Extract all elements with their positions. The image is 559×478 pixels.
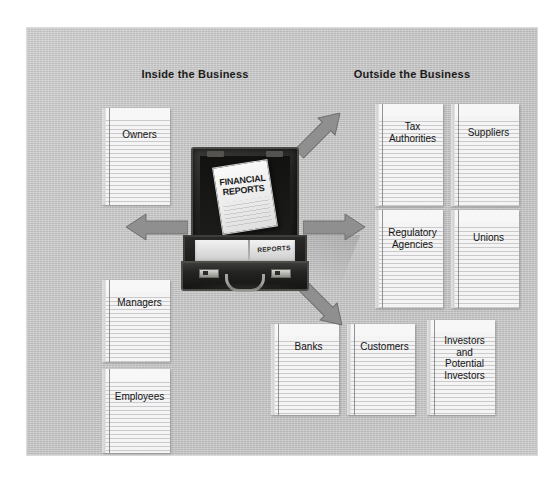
briefcase-paper-stack: REPORTS (195, 240, 295, 263)
card-top-band (375, 104, 443, 116)
card-spine (451, 210, 455, 308)
card-label-regulatory-agencies: Regulatory Agencies (384, 227, 441, 250)
card-ruled-sheet (271, 324, 339, 415)
card-label-investors: Investors and Potential Investors (436, 335, 493, 381)
card-margin-rule (458, 104, 459, 206)
card-unions: Unions (451, 210, 519, 308)
card-margin-rule (109, 108, 110, 205)
briefcase-lid: FINANCIAL REPORTS (191, 147, 299, 249)
card-tax-authorities: Tax Authorities (375, 104, 443, 206)
card-spine (102, 108, 106, 205)
card-top-band (427, 320, 495, 332)
card-suppliers: Suppliers (451, 104, 519, 206)
card-top-band (347, 324, 415, 336)
card-spine (375, 104, 379, 206)
financial-reports-title: FINANCIAL REPORTS (218, 173, 268, 198)
card-spine (375, 210, 379, 308)
card-ruled-sheet (451, 210, 519, 308)
heading-outside-the-business: Outside the Business (347, 68, 477, 80)
card-spine (102, 280, 106, 362)
card-margin-rule (109, 280, 110, 362)
heading-inside-the-business: Inside the Business (135, 68, 255, 80)
card-ruled-sheet (451, 104, 519, 206)
card-margin-rule (382, 104, 383, 206)
briefcase-hinge-left (207, 151, 224, 157)
card-margin-rule (354, 324, 355, 415)
card-ruled-sheet (102, 369, 170, 453)
card-spine (427, 320, 431, 415)
card-label-managers: Managers (111, 297, 168, 309)
briefcase-latch-left (199, 269, 219, 278)
card-top-band (451, 210, 519, 222)
document-rules (223, 196, 273, 229)
card-employees: Employees (102, 369, 170, 453)
card-ruled-sheet (102, 108, 170, 205)
card-top-band (102, 280, 170, 292)
card-top-band (102, 108, 170, 120)
card-top-band (451, 104, 519, 116)
figure-panel: Inside the Business Outside the Business… (27, 28, 537, 455)
card-ruled-sheet (375, 104, 443, 206)
briefcase-latch-right (271, 269, 291, 278)
card-spine (102, 369, 106, 453)
card-top-band (102, 369, 170, 381)
card-margin-rule (458, 210, 459, 308)
card-label-employees: Employees (111, 391, 168, 403)
financial-reports-document: FINANCIAL REPORTS (212, 159, 278, 235)
card-margin-rule (109, 369, 110, 453)
card-margin-rule (278, 324, 279, 415)
card-label-suppliers: Suppliers (460, 127, 517, 139)
reports-stack-label: REPORTS (251, 243, 297, 253)
briefcase-base: REPORTS (179, 235, 307, 288)
card-banks: Banks (271, 324, 339, 415)
card-ruled-sheet (102, 280, 170, 362)
card-managers: Managers (102, 280, 170, 362)
card-ruled-sheet (347, 324, 415, 415)
briefcase-ground-shadow (187, 283, 305, 292)
card-margin-rule (434, 320, 435, 415)
card-spine (271, 324, 275, 415)
card-label-unions: Unions (460, 232, 517, 244)
card-regulatory-agencies: Regulatory Agencies (375, 210, 443, 308)
card-label-banks: Banks (280, 341, 337, 353)
briefcase-hinge-right (266, 151, 283, 157)
card-ruled-sheet (375, 210, 443, 308)
card-spine (451, 104, 455, 206)
card-label-owners: Owners (111, 129, 168, 141)
card-top-band (375, 210, 443, 222)
briefcase-illustration: FINANCIAL REPORTS REPORTS (179, 147, 307, 288)
card-spine (347, 324, 351, 415)
card-margin-rule (382, 210, 383, 308)
card-investors: Investors and Potential Investors (427, 320, 495, 415)
card-owners: Owners (102, 108, 170, 205)
card-label-tax-authorities: Tax Authorities (384, 121, 441, 144)
card-customers: Customers (347, 324, 415, 415)
card-label-customers: Customers (356, 341, 413, 353)
paper-stack-divider (248, 240, 250, 263)
